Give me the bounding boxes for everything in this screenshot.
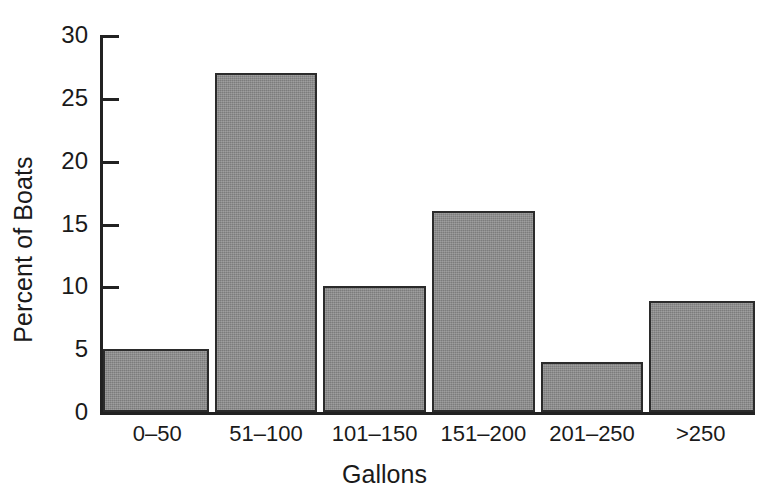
y-axis-tick-label: 30 <box>42 23 88 47</box>
y-axis-tick-label: 10 <box>42 274 88 298</box>
bar-slot <box>212 35 321 412</box>
x-axis-tick-labels: 0–5051–100101–150151–200201–250>250 <box>103 423 755 445</box>
y-axis-tick-label: 20 <box>42 149 88 173</box>
bar <box>215 73 318 412</box>
bar <box>103 349 209 412</box>
bar-chart: Percent of Boats 051015202530 0–5051–100… <box>0 0 769 499</box>
bar <box>541 362 644 412</box>
x-axis-tick-label: 51–100 <box>212 423 321 445</box>
plot-area <box>103 35 755 412</box>
x-axis-tick-label: 151–200 <box>429 423 538 445</box>
y-axis-tick-label: 5 <box>42 337 88 361</box>
y-axis-tick-label: 25 <box>42 86 88 110</box>
y-axis-tick-label: 0 <box>42 400 88 424</box>
bar <box>649 301 755 412</box>
x-axis-title: Gallons <box>0 460 769 489</box>
x-axis-tick-label: 201–250 <box>538 423 647 445</box>
bar-slot <box>103 35 212 412</box>
x-axis-tick-label: 0–50 <box>103 423 212 445</box>
bar-slot <box>646 35 755 412</box>
bar <box>323 286 426 412</box>
bar-slot <box>429 35 538 412</box>
x-axis-tick-label: >250 <box>646 423 755 445</box>
bar <box>432 211 535 412</box>
x-axis-tick-label: 101–150 <box>320 423 429 445</box>
x-axis-line <box>100 412 755 415</box>
y-axis-tick-label: 15 <box>42 212 88 236</box>
bar-slot <box>320 35 429 412</box>
bar-slot <box>538 35 647 412</box>
